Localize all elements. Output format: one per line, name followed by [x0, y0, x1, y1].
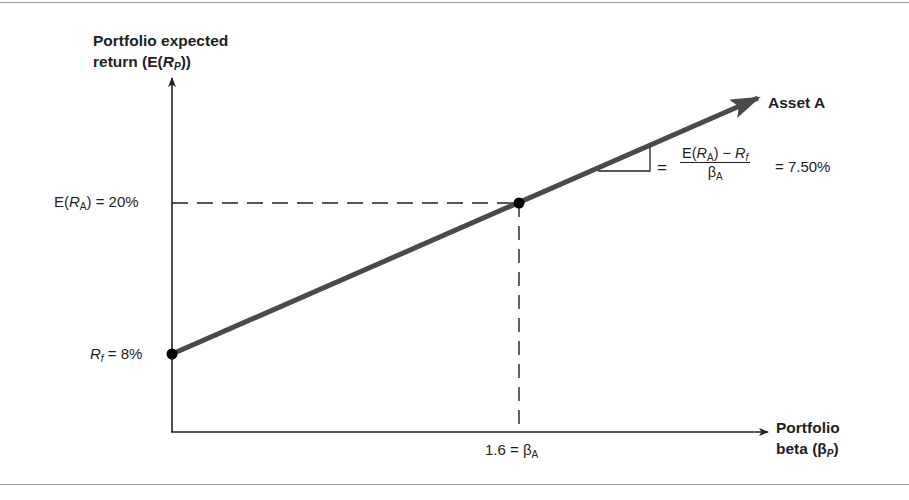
- beta-label: 1.6 = βA: [485, 441, 538, 458]
- y-axis-label-line2: return (E(RP)): [93, 51, 228, 72]
- slope-denominator: βA: [708, 163, 723, 180]
- x-axis-label: Portfolio beta (βP): [776, 417, 840, 459]
- slope-fraction: E(RA) − Rf βA: [680, 145, 750, 180]
- asset-a-point: [514, 198, 525, 209]
- slope-numerator: E(RA) − Rf: [680, 145, 750, 163]
- asset-a-line: [172, 98, 758, 354]
- x-axis-label-line1: Portfolio: [776, 417, 840, 438]
- risk-free-label: Rf = 8%: [90, 345, 142, 362]
- slope-value: = 7.50%: [775, 158, 830, 175]
- asset-a-label: Asset A: [768, 94, 825, 112]
- expected-return-label: E(RA) = 20%: [54, 193, 139, 210]
- slope-equals: =: [657, 158, 667, 178]
- rf-point: [167, 349, 178, 360]
- y-axis-label: Portfolio expected return (E(RP)): [93, 30, 228, 72]
- chart-canvas: [0, 0, 909, 500]
- y-axis-label-line1: Portfolio expected: [93, 30, 228, 51]
- x-axis-label-line2: beta (βP): [776, 438, 840, 459]
